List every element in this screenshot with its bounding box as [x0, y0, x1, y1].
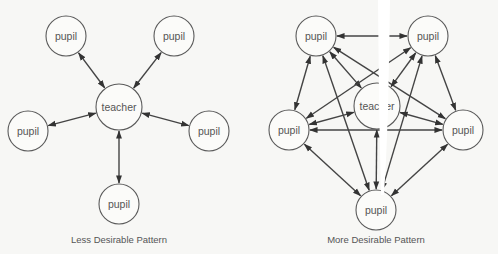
pupil-node: pupil: [443, 110, 483, 150]
edge-t-p3: [48, 113, 95, 126]
node-label: pupil: [305, 30, 327, 42]
edge-p1-p3: [295, 56, 310, 110]
edge-t-p4: [142, 113, 189, 125]
edge-p4-t: [400, 112, 443, 124]
captions-layer: Less Desirable PatternMore Desirable Pat…: [71, 234, 425, 245]
node-label: pupil: [365, 204, 387, 216]
node-label: pupil: [163, 30, 185, 42]
scan-tear-artifact: [378, 0, 390, 195]
node-label: teacher: [359, 100, 395, 112]
pupil-node: pupil: [46, 16, 86, 56]
node-label: teacher: [101, 101, 137, 113]
node-label: pupil: [108, 198, 130, 210]
pupil-node: pupil: [356, 190, 396, 230]
less-pattern-caption: Less Desirable Pattern: [71, 234, 167, 245]
pupil-node: pupil: [269, 110, 309, 150]
edge-p2-p4: [435, 56, 455, 111]
node-label: pupil: [452, 124, 474, 136]
pupil-node: pupil: [154, 16, 194, 56]
pupil-node: pupil: [408, 16, 448, 56]
communication-pattern-figure: teacherpupilpupilpupilpupilpupilteacherp…: [0, 0, 498, 254]
pupil-node: pupil: [296, 16, 336, 56]
more-pattern-caption: More Desirable Pattern: [327, 234, 425, 245]
node-label: pupil: [55, 30, 77, 42]
edge-p4-p5: [391, 144, 447, 196]
edge-t-p1: [79, 53, 105, 88]
pupil-node: pupil: [8, 111, 48, 151]
pupil-node: pupil: [189, 111, 229, 151]
teacher-node: teacher: [354, 83, 400, 129]
node-label: pupil: [417, 30, 439, 42]
edge-p3-t: [309, 112, 354, 124]
edge-t-p2: [134, 53, 161, 88]
node-label: pupil: [198, 125, 220, 137]
nodes-layer: teacherpupilpupilpupilpupilpupilteacherp…: [8, 16, 483, 230]
teacher-node: teacher: [96, 84, 142, 130]
edge-p1-t: [330, 52, 361, 88]
edge-p5-t: [376, 130, 377, 189]
node-label: pupil: [17, 125, 39, 137]
node-label: pupil: [278, 124, 300, 136]
edge-p3-p5: [304, 144, 360, 196]
pupil-node: pupil: [99, 184, 139, 224]
